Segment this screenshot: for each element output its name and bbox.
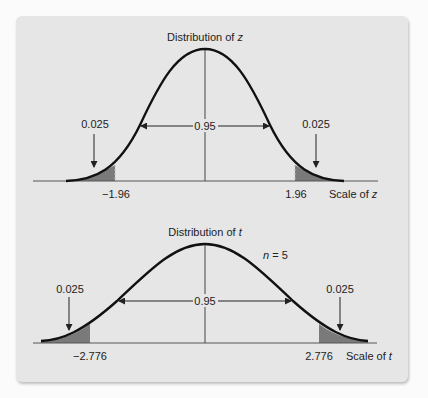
t-left-tail-label: 0.025 <box>56 283 84 295</box>
z-chart-title: Distribution of z <box>167 31 243 43</box>
z-right-tail-label: 0.025 <box>302 118 330 130</box>
z-scale-label: Scale of z <box>329 188 378 200</box>
distribution-diagram: Distribution of z 0.95 0.025 0.025 −1.96… <box>0 0 428 398</box>
z-distribution-chart: Distribution of z 0.95 0.025 0.025 −1.96… <box>33 31 378 200</box>
z-left-tail-label: 0.025 <box>81 118 109 130</box>
t-chart-title: Distribution of t <box>168 226 242 238</box>
z-center-area-label: 0.95 <box>194 120 215 132</box>
z-left-critical-value: −1.96 <box>102 188 130 200</box>
t-distribution-chart: Distribution of t n = 5 0.95 0.025 0.025… <box>33 226 393 362</box>
z-right-critical-value: 1.96 <box>285 188 306 200</box>
t-center-area-label: 0.95 <box>194 295 215 307</box>
t-scale-label: Scale of t <box>346 350 393 362</box>
t-left-critical-value: −2.776 <box>73 350 107 362</box>
t-right-tail-label: 0.025 <box>326 283 354 295</box>
t-sample-size-label: n = 5 <box>263 249 288 261</box>
t-right-critical-value: 2.776 <box>305 350 333 362</box>
